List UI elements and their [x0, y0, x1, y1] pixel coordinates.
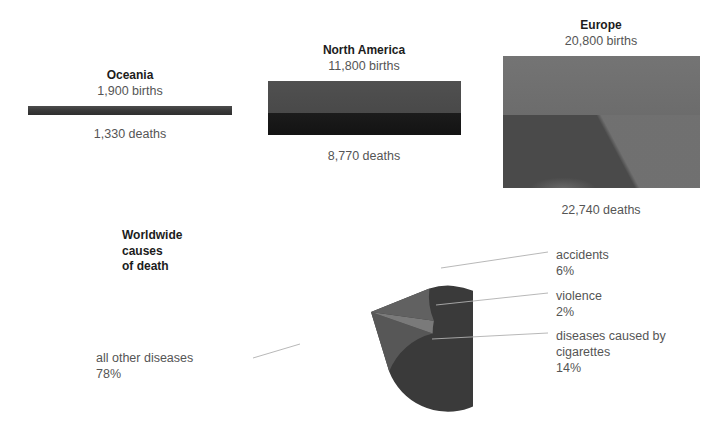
- pie-callout-accidents-percent: 6%: [556, 263, 716, 279]
- region-north-america-title: North America: [258, 43, 470, 58]
- pie-callout-all-other-diseases-percent: 78%: [96, 366, 266, 382]
- region-europe-block: [503, 56, 700, 188]
- pie-callout-cigarettes-percent: 14%: [556, 360, 720, 376]
- region-europe-deaths-segment: [503, 115, 700, 188]
- region-oceania-bar: [28, 106, 232, 115]
- region-north-america-block: [268, 81, 461, 135]
- region-europe-title: Europe: [492, 18, 710, 33]
- region-oceania: Oceania 1,900 births 1,330 deaths: [18, 68, 242, 142]
- region-europe-births-label: 20,800 births: [492, 33, 710, 49]
- region-north-america-deaths-segment: [268, 113, 461, 135]
- pie-callout-all-other-diseases-label: all other diseases: [96, 351, 193, 365]
- pie-heading-line-1: Worldwide: [122, 228, 242, 244]
- pie-callout-violence: violence 2%: [556, 288, 716, 320]
- region-europe-births-segment: [503, 56, 700, 115]
- pie-chart-heading: Worldwide causes of death: [122, 228, 242, 275]
- region-oceania-births-label: 1,900 births: [18, 83, 242, 99]
- region-oceania-deaths-label: 1,330 deaths: [18, 126, 242, 142]
- pie-callout-cigarettes-label-line-1: diseases caused by: [556, 329, 666, 343]
- pie-callout-cigarettes-label-line-2: cigarettes: [556, 344, 720, 360]
- pie-callout-violence-percent: 2%: [556, 304, 716, 320]
- region-north-america-births-label: 11,800 births: [258, 58, 470, 74]
- pie-callout-cigarettes: diseases caused by cigarettes 14%: [556, 328, 720, 376]
- pie-chart-svg: [268, 213, 473, 413]
- pie-callout-violence-label: violence: [556, 289, 602, 303]
- pie-heading-line-3: of death: [122, 259, 242, 275]
- pie-chart: [268, 213, 473, 413]
- pie-callout-accidents-label: accidents: [556, 248, 609, 262]
- region-europe: Europe 20,800 births 22,740 deaths: [492, 18, 710, 218]
- region-oceania-title: Oceania: [18, 68, 242, 83]
- region-north-america-births-segment: [268, 81, 461, 113]
- pie-heading-line-2: causes: [122, 244, 242, 260]
- region-north-america-deaths-label: 8,770 deaths: [258, 148, 470, 164]
- pie-callout-accidents: accidents 6%: [556, 247, 716, 279]
- region-europe-deaths-label: 22,740 deaths: [492, 202, 710, 218]
- region-north-america: North America 11,800 births 8,770 deaths: [258, 43, 470, 164]
- pie-callout-all-other-diseases: all other diseases 78%: [96, 350, 266, 382]
